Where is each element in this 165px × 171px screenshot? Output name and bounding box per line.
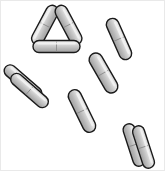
chain-rod-bottom — [66, 87, 98, 134]
figure-canvas — [0, 0, 165, 171]
clusters-layer — [2, 3, 156, 170]
rod-cluster-illustration — [0, 0, 165, 171]
chain-rod-top — [104, 16, 133, 61]
right-pair-cluster — [121, 122, 156, 170]
triangle-rod-bottom-highlight — [37, 43, 76, 45]
triangle-cluster — [29, 3, 84, 52]
chain-rod-middle — [87, 51, 121, 96]
left-pair-rod-lower — [8, 71, 51, 110]
left-pair-cluster — [2, 62, 51, 110]
triangle-rod-bottom — [33, 41, 80, 53]
